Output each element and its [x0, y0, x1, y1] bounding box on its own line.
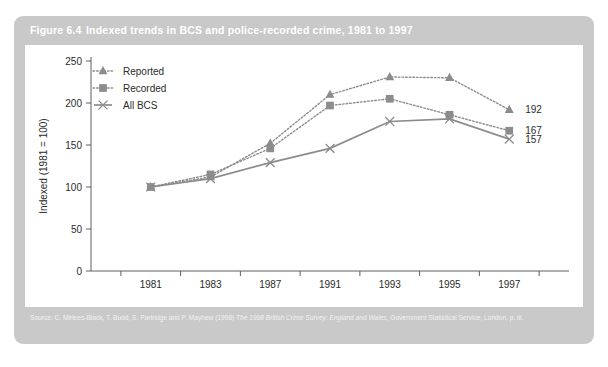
triangle-icon — [327, 91, 334, 97]
figure-number: Figure 6.4 — [30, 24, 86, 36]
x-tick-label: 1993 — [379, 279, 402, 290]
square-icon — [267, 145, 273, 151]
data-point — [506, 128, 512, 134]
figure-source: Source: C. Mirlees-Black, T. Budd, S. Pa… — [30, 313, 582, 323]
legend-marker — [100, 85, 106, 91]
data-point — [506, 106, 513, 112]
figure-container: Figure 6.4Indexed trends in BCS and poli… — [14, 16, 594, 344]
square-icon — [327, 102, 333, 108]
y-tick-label: 200 — [65, 98, 82, 109]
x-tick-label: 1997 — [498, 279, 521, 290]
data-point — [267, 145, 273, 151]
series-line-recorded — [151, 99, 510, 187]
y-axis-title: Indexed (1981 = 100) — [38, 118, 49, 213]
series-line-all-bcs — [151, 119, 510, 187]
x-tick-label: 1987 — [259, 279, 282, 290]
line-chart: 050100150200250Indexed (1981 = 100)19811… — [25, 45, 583, 307]
square-icon — [387, 96, 393, 102]
chart-panel: 050100150200250Indexed (1981 = 100)19811… — [25, 45, 583, 307]
y-tick-label: 100 — [65, 182, 82, 193]
y-tick-label: 0 — [76, 266, 82, 277]
triangle-icon — [100, 67, 107, 73]
series-end-label: 157 — [525, 134, 542, 145]
x-tick-label: 1995 — [438, 279, 461, 290]
square-icon — [100, 85, 106, 91]
x-tick-label: 1983 — [199, 279, 222, 290]
source-title-italic: The 1998 British Crime Survey: England a… — [236, 314, 387, 321]
data-point — [327, 91, 334, 97]
data-point — [446, 74, 453, 80]
triangle-icon — [506, 106, 513, 112]
data-point — [505, 135, 514, 144]
data-point — [386, 73, 393, 79]
source-suffix: , Government Statistical Service, London… — [387, 314, 524, 321]
legend-marker — [100, 67, 107, 73]
series-end-label: 192 — [525, 104, 542, 115]
data-point — [387, 96, 393, 102]
data-point — [327, 102, 333, 108]
source-prefix: Source: C. Mirlees-Black, T. Budd, S. Pa… — [30, 314, 236, 321]
legend-label: All BCS — [123, 100, 158, 111]
x-tick-label: 1991 — [319, 279, 342, 290]
legend-label: Recorded — [123, 83, 166, 94]
square-icon — [506, 128, 512, 134]
x-tick-label: 1981 — [140, 279, 163, 290]
y-tick-label: 250 — [65, 56, 82, 67]
triangle-icon — [386, 73, 393, 79]
y-tick-label: 50 — [71, 224, 83, 235]
y-tick-label: 150 — [65, 140, 82, 151]
figure-title: Figure 6.4Indexed trends in BCS and poli… — [30, 24, 578, 36]
figure-title-text: Indexed trends in BCS and police-recorde… — [86, 24, 413, 36]
legend-label: Reported — [123, 66, 164, 77]
triangle-icon — [446, 74, 453, 80]
